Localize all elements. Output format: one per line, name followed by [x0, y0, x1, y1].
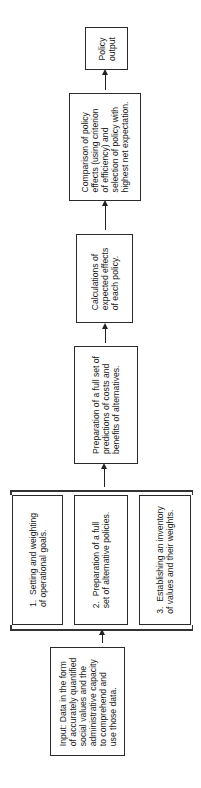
values-box: 3. Establishing an inventory of values a…	[139, 495, 191, 625]
arrow-to-group	[102, 633, 103, 643]
policy-output-box: Policy output	[85, 27, 128, 70]
goals-label: 1. Setting and weighting of operational …	[28, 513, 48, 607]
goals-box: 1. Setting and weighting of operational …	[12, 495, 63, 625]
bracket-top	[10, 490, 193, 492]
bracket-top-right-tick	[192, 490, 194, 495]
arrow-to-calculations	[105, 327, 106, 343]
bracket-bottom-right-tick	[192, 625, 194, 630]
calculations-label: Calculations of expected effects of each…	[90, 247, 120, 309]
bracket-bottom-left-tick	[10, 625, 12, 630]
predictions-box: Preparation of a full set of predictions…	[74, 346, 138, 464]
arrow-to-comparison	[105, 204, 106, 230]
alternatives-label: 2. Preparation of a full set of alternat…	[91, 512, 111, 609]
input-box: Input: Data in the form of accurately qu…	[50, 647, 125, 756]
arrow-to-output	[105, 73, 106, 90]
arrow-to-predictions	[104, 467, 105, 487]
alternatives-box: 2. Preparation of a full set of alternat…	[74, 495, 128, 625]
calculations-box: Calculations of expected effects of each…	[76, 234, 133, 323]
values-label: 3. Establishing an inventory of values a…	[155, 506, 175, 614]
input-label: Input: Data in the form of accurately qu…	[58, 657, 118, 745]
comparison-box: Comparison of policy effects (using crit…	[69, 93, 141, 201]
comparison-label: Comparison of policy effects (using crit…	[80, 102, 130, 193]
predictions-label: Preparation of a full set of predictions…	[91, 356, 121, 454]
policy-output-label: Policy output	[97, 37, 117, 61]
